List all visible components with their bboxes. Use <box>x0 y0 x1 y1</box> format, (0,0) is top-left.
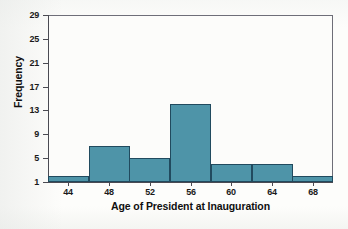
x-axis-tick <box>313 182 314 186</box>
x-axis-tick <box>109 182 110 186</box>
y-axis-tick <box>43 63 48 64</box>
y-axis-tick <box>43 39 48 40</box>
y-axis-tick <box>43 15 48 16</box>
x-axis-tick <box>150 182 151 186</box>
y-axis-tick-label: 29 <box>9 11 39 20</box>
y-axis-tick <box>43 110 48 111</box>
x-axis-tick-label: 48 <box>94 188 124 197</box>
y-axis-tick <box>43 87 48 88</box>
plot-area-frame <box>48 15 333 182</box>
x-axis-tick-label: 44 <box>53 188 83 197</box>
x-axis-tick-label: 56 <box>176 188 206 197</box>
histogram-figure: 1591317212529 44485256606468 Frequency A… <box>0 0 348 229</box>
y-axis-tick-label: 1 <box>9 178 39 187</box>
y-axis-tick <box>43 134 48 135</box>
x-axis-tick-label: 68 <box>298 188 328 197</box>
y-axis-tick <box>43 158 48 159</box>
y-axis-tick <box>43 182 48 183</box>
x-axis-tick <box>272 182 273 186</box>
x-axis-tick-label: 64 <box>257 188 287 197</box>
x-axis-tick-label: 60 <box>216 188 246 197</box>
x-axis-tick-label: 52 <box>135 188 165 197</box>
x-axis-tick <box>68 182 69 186</box>
x-axis-tick <box>191 182 192 186</box>
x-axis-title: Age of President at Inauguration <box>48 200 333 212</box>
x-axis-tick <box>231 182 232 186</box>
y-axis-tick-label: 5 <box>9 154 39 163</box>
y-axis-line <box>48 15 49 182</box>
y-axis-title: Frequency <box>12 32 24 132</box>
